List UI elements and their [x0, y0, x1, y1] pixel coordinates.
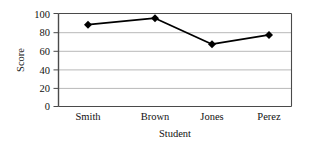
ytick-label-20: 20 — [40, 83, 51, 94]
chart-canvas: 0 20 40 60 80 100 Smith Brown Jones Pere… — [0, 0, 310, 142]
ytick-label-0: 0 — [45, 101, 50, 112]
ytick-label-60: 60 — [40, 46, 51, 57]
x-category-labels: Smith Brown Jones Perez — [75, 111, 281, 122]
line-chart-figure: 0 20 40 60 80 100 Smith Brown Jones Pere… — [0, 0, 310, 142]
ytick-label-40: 40 — [40, 65, 51, 76]
x-axis-title: Student — [159, 128, 191, 139]
y-tick-marks — [54, 14, 59, 107]
ytick-label-100: 100 — [34, 9, 50, 20]
ytick-label-80: 80 — [40, 27, 51, 38]
xtick-label-perez: Perez — [257, 111, 281, 122]
xtick-label-jones: Jones — [200, 111, 223, 122]
y-tick-labels: 0 20 40 60 80 100 — [34, 9, 50, 113]
xtick-label-smith: Smith — [75, 111, 101, 122]
y-axis-title: Score — [15, 48, 26, 72]
xtick-label-brown: Brown — [141, 111, 170, 122]
